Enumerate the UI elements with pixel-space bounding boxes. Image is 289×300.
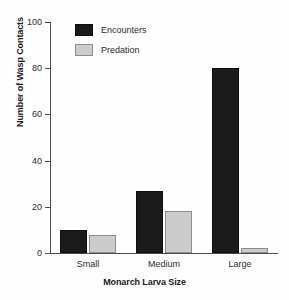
y-axis-tick-label: 0 bbox=[37, 248, 42, 258]
x-axis-tick-label: Small bbox=[77, 259, 100, 269]
gray-swatch-icon bbox=[75, 44, 93, 56]
y-axis-tick-label: 100 bbox=[27, 17, 42, 27]
y-axis-tick bbox=[45, 207, 50, 208]
bar-medium-predation bbox=[165, 211, 192, 253]
y-axis-tick bbox=[45, 161, 50, 162]
y-axis-tick-label: 60 bbox=[32, 109, 42, 119]
bar-small-predation bbox=[89, 235, 116, 253]
y-axis-tick-label: 20 bbox=[32, 202, 42, 212]
y-axis-tick bbox=[45, 253, 50, 254]
y-axis-tick-label: 80 bbox=[32, 63, 42, 73]
x-axis-tick-label: Large bbox=[228, 259, 251, 269]
y-axis-tick-label: 40 bbox=[32, 156, 42, 166]
bar-large-encounters bbox=[212, 68, 239, 253]
x-axis-title: Monarch Larva Size bbox=[0, 277, 289, 287]
bar-medium-encounters bbox=[136, 191, 163, 253]
legend-label-predation: Predation bbox=[101, 45, 140, 55]
y-axis-tick bbox=[45, 114, 50, 115]
legend-label-encounters: Encounters bbox=[101, 25, 147, 35]
legend-item-predation: Predation bbox=[75, 40, 185, 60]
legend-item-encounters: Encounters bbox=[75, 20, 185, 40]
y-axis-tick bbox=[45, 22, 50, 23]
black-swatch-icon bbox=[75, 24, 93, 36]
y-axis-tick bbox=[45, 68, 50, 69]
y-axis-line bbox=[50, 22, 51, 254]
x-axis-line bbox=[50, 253, 278, 254]
chart-legend: Encounters Predation bbox=[75, 20, 185, 60]
bar-small-encounters bbox=[60, 230, 87, 253]
bar-large-predation bbox=[241, 248, 268, 253]
bar-chart-figure: Number of Wasp Contacts 020406080100Smal… bbox=[0, 0, 289, 300]
x-axis-tick-label: Medium bbox=[148, 259, 180, 269]
